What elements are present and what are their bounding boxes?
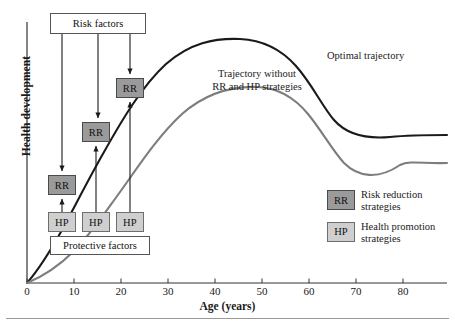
legend-swatch-rr: RR bbox=[327, 190, 355, 210]
risk-factors-box: Risk factors bbox=[50, 13, 146, 34]
legend-swatch-hp: HP bbox=[327, 222, 355, 242]
rr-node-3: RR bbox=[116, 78, 144, 98]
x-tick-label-50: 50 bbox=[250, 285, 274, 297]
legend-text-hp: Health promotion strategies bbox=[361, 221, 435, 246]
legend-text-hp-line2: strategies bbox=[361, 233, 435, 245]
hp-node-1: HP bbox=[48, 212, 76, 232]
x-tick-label-10: 10 bbox=[62, 285, 86, 297]
footer-divider bbox=[6, 318, 449, 319]
x-axis-title: Age (years) bbox=[0, 300, 455, 312]
x-tick-label-40: 40 bbox=[203, 285, 227, 297]
x-tick-label-70: 70 bbox=[344, 285, 368, 297]
hp-node-3: HP bbox=[116, 212, 144, 232]
x-tick-label-20: 20 bbox=[109, 285, 133, 297]
rr-node-1: RR bbox=[48, 175, 76, 195]
x-tick-label-30: 30 bbox=[156, 285, 180, 297]
legend-row-rr: RR Risk reduction strategies bbox=[327, 190, 435, 214]
x-tick-label-80: 80 bbox=[391, 285, 415, 297]
legend-text-rr-line1: Risk reduction bbox=[361, 189, 423, 201]
x-axis-ticks bbox=[27, 279, 403, 284]
legend-text-rr-line2: strategies bbox=[361, 201, 423, 213]
y-axis-title: Health development bbox=[20, 36, 32, 176]
hp-node-2: HP bbox=[82, 212, 110, 232]
without-strategies-label-line1: Trajectory without bbox=[192, 68, 322, 81]
legend-text-rr: Risk reduction strategies bbox=[361, 189, 423, 214]
health-development-trajectory-figure: Health development Age (years) 0 10 20 3… bbox=[0, 0, 455, 328]
protective-factors-box: Protective factors bbox=[50, 236, 150, 255]
legend-text-hp-line1: Health promotion bbox=[361, 221, 435, 233]
without-strategies-label-line2: RR and HP strategies bbox=[192, 81, 322, 94]
x-tick-label-0: 0 bbox=[15, 285, 39, 297]
rr-node-2: RR bbox=[82, 122, 110, 142]
x-tick-label-60: 60 bbox=[297, 285, 321, 297]
protective-factor-arrows bbox=[62, 102, 130, 212]
legend: RR Risk reduction strategies HP Health p… bbox=[327, 190, 435, 254]
optimal-trajectory-label: Optimal trajectory bbox=[327, 50, 404, 63]
legend-row-hp: HP Health promotion strategies bbox=[327, 222, 435, 246]
